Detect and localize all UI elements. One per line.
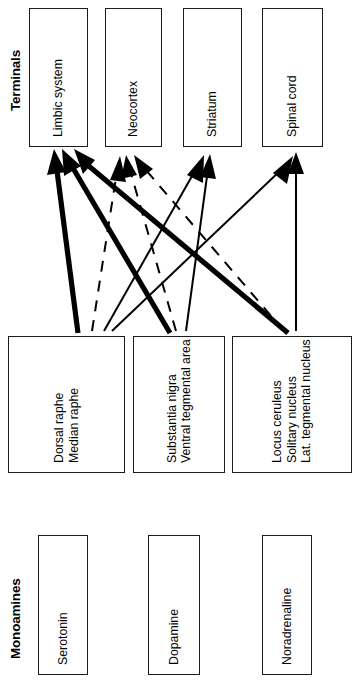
origin-label-line: Dorsal raphe xyxy=(52,393,66,463)
terminal-box-striatum[interactable]: Striatum xyxy=(183,8,242,147)
figure-rotator: Monoamines Origin Terminals xyxy=(0,0,360,683)
terminal-box-spinal-cord[interactable]: Spinal cord xyxy=(262,8,323,147)
monoamine-label: Noradrenaline xyxy=(280,588,294,665)
origin-label-line: Lat. tegmental nucleus xyxy=(299,339,313,463)
terminal-label: Neocortex xyxy=(126,81,140,137)
terminal-label: Limbic system xyxy=(51,59,65,137)
origin-label-line: Ventral tegmental area xyxy=(179,339,193,463)
monoamine-label: Serotonin xyxy=(56,612,70,665)
origin-box-raphe[interactable]: Dorsal raphe Median raphe xyxy=(8,336,125,473)
arrow-ceruleus-to-neocortex xyxy=(134,155,284,331)
origin-label-line: Solitary nucleus xyxy=(285,376,299,463)
monoamine-box-dopamine[interactable]: Dopamine xyxy=(148,535,200,675)
terminal-box-limbic-system[interactable]: Limbic system xyxy=(29,8,88,147)
origin-box-nigra[interactable]: Substantia nigra Ventral tegmental area xyxy=(133,336,225,473)
arrow-raphe-to-limbic xyxy=(47,149,78,333)
arrow-ceruleus-to-limbic xyxy=(74,149,288,333)
terminal-label: Striatum xyxy=(205,91,219,137)
monoamine-box-serotonin[interactable]: Serotonin xyxy=(38,535,88,675)
monoamine-box-noradrenaline[interactable]: Noradrenaline xyxy=(262,535,312,675)
origin-box-ceruleus[interactable]: Locus ceruleus Solitary nucleus Lat. teg… xyxy=(232,336,352,473)
origin-label-line: Substantia nigra xyxy=(165,374,179,463)
origin-label-line: Locus ceruleus xyxy=(270,380,284,463)
monoamine-pathway-diagram: Monoamines Origin Terminals xyxy=(0,0,360,683)
terminal-label: Spinal cord xyxy=(285,75,299,137)
origin-label-line: Median raphe xyxy=(67,388,81,463)
arrow-nigra-to-neocortex xyxy=(121,155,176,331)
monoamine-label: Dopamine xyxy=(167,609,181,665)
arrow-ceruleus-to-spinal xyxy=(288,152,304,331)
terminal-box-neocortex[interactable]: Neocortex xyxy=(105,8,162,147)
